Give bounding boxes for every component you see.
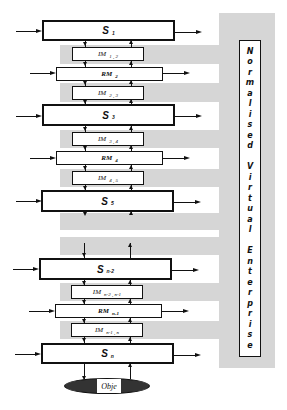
side-label-char: i: [249, 174, 252, 182]
node-s1: S1: [42, 20, 175, 41]
side-label-char: m: [246, 79, 254, 87]
node-subscript: 3 , 4: [109, 139, 118, 144]
arrow-down-icon: [82, 338, 86, 342]
s3-output-line: [175, 116, 197, 117]
node-im23: IM2 , 3: [72, 86, 144, 100]
sn2-output-line: [172, 270, 194, 271]
node-subscript: 2: [115, 74, 118, 79]
arrow-up-icon: [129, 61, 133, 65]
node-s3: S3: [42, 104, 175, 126]
arrow-up-icon: [128, 243, 132, 247]
arrow-up-icon: [128, 280, 132, 284]
node-label: S: [102, 25, 109, 36]
side-label-char: i: [249, 111, 252, 119]
arrow-right-icon: [183, 309, 189, 313]
node-sn2: Sn-2: [39, 258, 172, 280]
node-label: RM: [98, 307, 109, 315]
object-label: Obje: [97, 379, 121, 393]
rm2-input-line: [30, 73, 52, 74]
node-label: S: [101, 196, 108, 207]
node-imn2n1: IMn-2 , n-1: [71, 285, 143, 299]
side-label-char: n: [247, 258, 253, 266]
node-im34: IM3 , 4: [72, 132, 144, 146]
node-s5: S5: [41, 190, 174, 212]
side-label-char: u: [247, 205, 253, 213]
side-label-char: [249, 237, 252, 245]
side-label-char: V: [247, 163, 253, 171]
side-label-char: s: [248, 331, 253, 339]
node-label: IM: [98, 174, 106, 182]
side-label-char: p: [247, 300, 253, 308]
arrow-right-icon: [196, 30, 202, 34]
node-subscript: n-2: [107, 268, 115, 274]
side-label-char: E: [247, 247, 252, 255]
node-label: IM: [98, 135, 106, 143]
s5-input-line: [16, 201, 38, 202]
rm4-output-line: [163, 158, 185, 159]
node-subscript: 5: [111, 200, 114, 206]
node-subscript: n-1: [112, 311, 119, 316]
side-label-char: r: [248, 289, 252, 297]
node-rm4: RM4: [56, 151, 163, 165]
arrow-right-icon: [196, 114, 202, 118]
node-rmn1: RMn-1: [55, 304, 162, 318]
side-label-char: d: [247, 142, 253, 150]
rmn1-input-line: [29, 311, 51, 312]
node-label: RM: [101, 154, 112, 162]
side-label-char: N: [247, 48, 254, 56]
side-label-char: l: [249, 100, 252, 108]
node-subscript: n-1 , n: [106, 330, 119, 335]
arrow-down-icon: [83, 146, 87, 150]
s1-output-line: [175, 32, 197, 33]
side-label-char: i: [249, 321, 252, 329]
node-label: S: [101, 348, 108, 359]
side-label-char: r: [248, 69, 252, 77]
arrow-up-icon: [128, 337, 132, 341]
side-label-char: r: [248, 310, 252, 318]
arrow-down-icon: [83, 127, 87, 131]
side-label-char: a: [247, 216, 252, 224]
node-label: S: [102, 110, 109, 121]
arrow-up-icon: [129, 185, 133, 189]
arrow-up-icon: [128, 299, 132, 303]
side-label-char: t: [248, 195, 252, 203]
rm2-output-line: [163, 73, 185, 74]
side-label-char: a: [247, 90, 252, 98]
node-subscript: 1: [112, 30, 115, 36]
rmn1-output-line: [162, 311, 184, 312]
arrow-right-icon: [184, 71, 190, 75]
node-subscript: 3: [112, 114, 115, 120]
node-subscript: 2 , 3: [109, 93, 118, 98]
side-label-char: o: [247, 58, 253, 66]
side-label-char: e: [247, 132, 252, 140]
node-im12: IM1 , 2: [72, 47, 144, 61]
node-rm2: RM2: [56, 67, 163, 81]
s5-output-line: [174, 202, 196, 203]
node-subscript: 4: [115, 158, 118, 163]
arrow-right-icon: [195, 200, 201, 204]
sn2-input-line: [13, 269, 35, 270]
node-label: S: [97, 264, 104, 275]
side-label-char: t: [248, 268, 252, 276]
nve-label-box: Normalised Virtual Enterprise: [239, 40, 261, 357]
node-label: IM: [95, 326, 103, 334]
node-subscript: n-2 , n-1: [104, 292, 121, 297]
arrow-right-icon: [193, 268, 199, 272]
arrow-down-icon: [83, 42, 87, 46]
node-subscript: 1 , 2: [109, 54, 118, 59]
node-subscript: n: [111, 353, 114, 359]
node-label: IM: [93, 288, 101, 296]
node-sn: Sn: [41, 343, 174, 364]
arrow-down-icon: [83, 212, 87, 216]
side-label-char: [249, 153, 252, 161]
side-label-char: e: [247, 342, 252, 350]
arrow-right-icon: [195, 353, 201, 357]
side-label-char: e: [247, 279, 252, 287]
side-label-char: l: [249, 226, 252, 234]
arrow-down-icon: [82, 253, 86, 257]
arrow-down-icon: [83, 62, 87, 66]
s3-input-line: [16, 116, 38, 117]
node-label: IM: [98, 89, 106, 97]
rm4-input-line: [30, 158, 52, 159]
node-subscript: 4 , 5: [109, 178, 118, 183]
